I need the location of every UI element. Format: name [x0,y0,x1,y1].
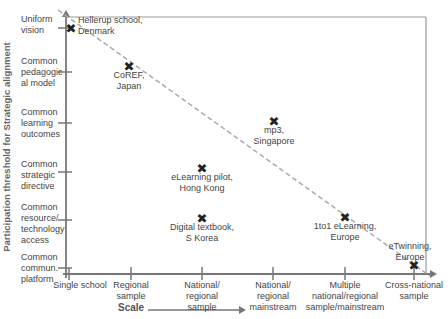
x-tick-cross-national: Cross-nationalsample [369,280,448,302]
point-label-hellerup: Hellerup school,Denmark [78,15,143,37]
point-label-1to1: 1to1 eLearning,Europe [295,221,395,243]
marker-hellerup: ✖ [66,21,77,36]
y-tick-strategic-directive: Commonstrategicdirective [21,159,67,192]
point-label-mp3: mp3,Singapore [224,125,324,147]
y-tick-pedagogical-model: Commonpedagogical model [21,56,67,89]
x-axis-arrow [430,270,437,278]
point-label-coref: CoREF,Japan [79,70,179,92]
point-label-hongkong: eLearning pilot,Hong Kong [152,172,252,194]
y-tick-learning-outcomes: Commonlearningoutcomes [21,107,67,140]
y-tick-uniform-vision: Uniformvision [21,14,67,36]
point-label-korea: Digital textbook,S Korea [152,222,252,244]
x-axis-title: Scale [118,302,144,313]
scatter-diagram: Participation threshold for Strategic al… [0,0,448,319]
y-axis-title: Participation threshold for Strategic al… [1,41,12,251]
point-label-etwinning: eTwinning,Europe [360,241,448,263]
y-tick-resource-access: Commonresource/technologyaccess [21,202,67,246]
